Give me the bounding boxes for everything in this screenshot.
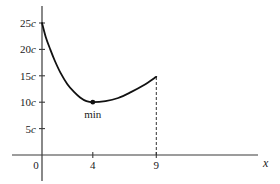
x-tick-label: 9 <box>154 159 160 171</box>
y-tick-label: 10c <box>20 96 36 108</box>
x-tick-label: 0 <box>33 159 39 171</box>
y-tick-label: 5c <box>26 123 37 135</box>
y-tick-label: 25c <box>20 17 36 29</box>
minimum-point-marker <box>90 100 95 105</box>
cost-curve-line <box>42 23 156 102</box>
x-axis: 049 x <box>12 152 269 171</box>
y-ticks: 5c10c15c20c25c <box>20 17 45 135</box>
x-axis-label: x <box>262 156 269 170</box>
minimum-label: min <box>84 108 102 120</box>
cost-curve-chart: 5c10c15c20c25c 049 x min <box>0 0 280 184</box>
annotation-points: min <box>84 100 102 120</box>
y-tick-label: 15c <box>20 70 36 82</box>
y-tick-label: 20c <box>20 43 36 55</box>
x-tick-label: 4 <box>90 159 96 171</box>
